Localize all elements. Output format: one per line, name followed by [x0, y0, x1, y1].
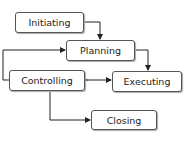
node-closing: Closing — [91, 110, 157, 130]
node-label: Controlling — [21, 75, 73, 86]
node-label: Executing — [124, 76, 171, 87]
edge-controlling-closing — [50, 92, 90, 120]
process-diagram: Initiating Planning Controlling Executin… — [0, 0, 190, 142]
node-initiating: Initiating — [15, 12, 84, 33]
node-planning: Planning — [66, 40, 135, 61]
edge-planning-executing — [135, 50, 148, 70]
node-label: Planning — [80, 45, 121, 56]
node-label: Initiating — [28, 17, 70, 28]
node-controlling: Controlling — [9, 70, 85, 91]
node-executing: Executing — [112, 71, 182, 92]
node-label: Closing — [107, 115, 142, 126]
edge-initiating-planning — [84, 22, 100, 39]
